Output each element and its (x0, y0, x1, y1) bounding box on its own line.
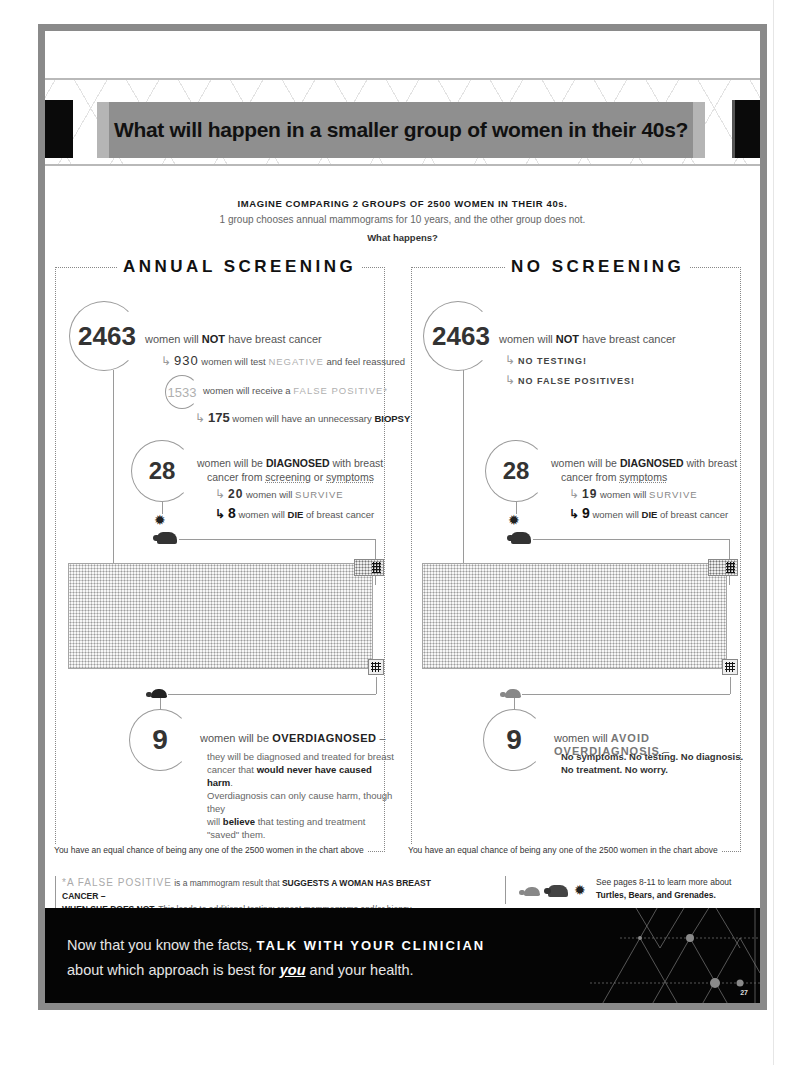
avoid-text: women will (554, 732, 611, 744)
panel-title: NO SCREENING (505, 257, 690, 277)
no-cancer-text: women will (499, 333, 556, 345)
count-circle: 2463 (423, 301, 493, 371)
overdiagnosed-count: 9 (152, 724, 168, 756)
diagnosed-text-post: with breast (683, 457, 737, 469)
survive-count: 20 (228, 487, 243, 501)
diagnosed-source-text: cancer from (561, 471, 619, 483)
die-row: ↳9 women will DIE of breast cancer (569, 505, 728, 521)
no-cancer-text-post: have breast cancer (225, 333, 322, 345)
cta-line-1: Now that you know the facts, TALK WITH Y… (67, 933, 485, 958)
no-testing-row: ↳NO TESTING! (505, 353, 587, 367)
diagnosed-text: women will be (551, 457, 620, 469)
arrow-right-icon: ↳ (161, 354, 171, 368)
survive-row: ↳20 women will SURVIVE (215, 487, 344, 501)
overdiagnosed-line-3: Overdiagnosis can only cause harm, thoug… (207, 789, 395, 815)
intro-heading: IMAGINE COMPARING 2 GROUPS OF 2500 WOMEN… (45, 198, 760, 209)
connector-line (376, 677, 377, 694)
arrow-right-icon: ↳ (215, 487, 225, 501)
connector-line (179, 539, 375, 540)
false-positive-row: women will receive a FALSE POSITIVE* (203, 385, 388, 396)
diagnosed-source-text: cancer from (207, 471, 265, 483)
women-dot-grid (422, 563, 738, 669)
negative-row: ↳930 women will test NEGATIVE and feel r… (161, 353, 405, 368)
text: will (207, 816, 223, 827)
biopsy-row: ↳175 women will have an unnecessary BIOP… (195, 410, 410, 425)
grenade-icon: ✹ (508, 513, 520, 527)
cta-emphasis: TALK WITH YOUR CLINICIAN (256, 938, 485, 953)
intro-question: What happens? (45, 232, 760, 243)
footnote-text: is a mammogram result that (172, 878, 282, 888)
equal-chance-note: You have an equal chance of being any on… (51, 845, 367, 855)
no-screening-panel: NO SCREENING 2463 women will NOT have br… (409, 257, 749, 857)
diagnosed-row-2: cancer from symptoms (561, 471, 667, 483)
dot-grid-overdiagnosed-block (368, 659, 384, 675)
survive-text: women will (600, 489, 649, 500)
no-testing-label: NO TESTING! (518, 356, 587, 366)
page: What will happen in a smaller group of w… (45, 31, 760, 1003)
symptoms-term: symptoms (326, 471, 374, 483)
die-count: 9 (582, 505, 590, 521)
women-dot-grid (68, 563, 384, 669)
overdiagnosed-line-1: they will be diagnosed and treated for b… (207, 750, 395, 763)
avoid-count: 9 (506, 724, 522, 756)
diagnosed-row-1: women will be DIAGNOSED with breast (197, 457, 383, 469)
no-cancer-bold: NOT (556, 333, 579, 345)
diagnosed-row-1: women will be DIAGNOSED with breast (551, 457, 737, 469)
arrow-right-icon: ↳ (569, 487, 579, 501)
grenade-icon: ✹ (574, 883, 586, 897)
diagnosed-keyword: DIAGNOSED (266, 457, 330, 469)
survive-row: ↳19 women will SURVIVE (569, 487, 698, 501)
diagnosed-row-2: cancer from screening or symptoms (207, 471, 374, 483)
dot-grid-2500 (422, 563, 727, 669)
believe-emphasis: believe (223, 816, 255, 827)
overdiagnosed-line-2: cancer that would never have caused harm… (207, 763, 395, 789)
die-text: women will (592, 509, 641, 520)
arrow-right-icon: ↳ (195, 411, 205, 425)
no-cancer-text: women will (145, 333, 202, 345)
no-cancer-row: women will NOT have breast cancer (499, 333, 676, 345)
die-text-post: of breast cancer (657, 509, 728, 520)
turtle-icon (505, 689, 521, 698)
bear-icon (548, 885, 568, 897)
turtle-icon (151, 689, 167, 698)
triangle-pattern-icon (590, 908, 760, 1003)
avoid-body: No symptoms. No testing. No diagnosis. N… (561, 750, 743, 776)
survive-text: women will (246, 489, 295, 500)
negative-count: 930 (174, 353, 199, 368)
die-row: ↳8 women will DIE of breast cancer (215, 505, 374, 521)
false-positive-text: women will receive a (203, 385, 293, 396)
arrow-right-bold-icon: ↳ (569, 507, 579, 521)
diagnosed-keyword: DIAGNOSED (620, 457, 684, 469)
no-false-positives-row: ↳NO FALSE POSITIVES! (505, 373, 635, 387)
bear-icon (157, 532, 177, 544)
see-pages-line-1: See pages 8-11 to learn more about (596, 876, 731, 889)
call-to-action-band: Now that you know the facts, TALK WITH Y… (45, 908, 760, 1003)
diagnosed-text-post: with breast (329, 457, 383, 469)
overdiagnosed-circle: 9 (129, 709, 191, 771)
page-title: What will happen in a smaller group of w… (114, 118, 688, 142)
false-positive-circle: 1533 (165, 375, 199, 409)
false-positive-keyword: FALSE POSITIVE* (293, 385, 388, 396)
bear-icon (511, 532, 531, 544)
cta-text: Now that you know the facts, TALK WITH Y… (67, 933, 485, 982)
text: . (230, 777, 233, 788)
annual-screening-panel: ANNUAL SCREENING 2463 women will NOT hav… (55, 257, 395, 857)
see-pages-note: ✹ See pages 8-11 to learn more about Tur… (505, 876, 760, 904)
die-text-post: of breast cancer (303, 509, 374, 520)
avoid-line-1: No symptoms. No testing. No diagnosis. (561, 750, 743, 763)
overdiagnosed-keyword: OVERDIAGNOSED (272, 732, 376, 744)
footnote-term: A FALSE POSITIVE (67, 877, 172, 888)
page-frame: What will happen in a smaller group of w… (38, 24, 767, 1010)
overdiagnosed-line-4: will believe that testing and treatment … (207, 815, 395, 841)
survive-keyword: SURVIVE (295, 489, 344, 500)
title-band: What will happen in a smaller group of w… (45, 78, 760, 166)
arrow-right-icon: ↳ (505, 353, 515, 367)
cta-text-part: about which approach is best for (67, 962, 280, 978)
diagnosed-circle: 28 (485, 440, 547, 502)
no-cancer-text-post: have breast cancer (579, 333, 676, 345)
connector-line (113, 370, 114, 587)
survive-keyword: SURVIVE (649, 489, 698, 500)
diagnosed-count: 28 (149, 457, 176, 485)
equal-chance-note: You have an equal chance of being any on… (405, 845, 721, 855)
page-number: 27 (740, 989, 748, 996)
